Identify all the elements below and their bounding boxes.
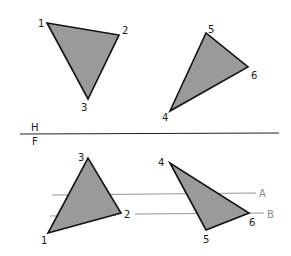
top-label-2: 2: [122, 25, 128, 36]
reference-label-a: A: [259, 188, 266, 199]
top-label-1: 1: [38, 18, 44, 29]
front-label-2: 2: [124, 209, 130, 220]
front-label-3: 3: [78, 152, 84, 163]
fold-label-h: H: [31, 122, 39, 133]
front-label-6: 6: [249, 217, 255, 228]
top-label-4: 4: [162, 112, 168, 123]
front-triangle-456: [170, 163, 249, 230]
reference-label-b: B: [267, 209, 274, 220]
top-triangle-123: [47, 23, 119, 99]
top-label-3: 3: [81, 102, 87, 113]
fold-line-group: H F: [20, 122, 279, 147]
front-triangle-123: [48, 158, 121, 233]
front-label-5: 5: [203, 234, 209, 245]
top-triangle-456: [170, 33, 248, 111]
intersection-diagram: 1 2 3 4 5 6 H F 1 2 3 4 5 6 A B: [0, 0, 291, 256]
fold-line-hf: [20, 133, 279, 134]
top-label-6: 6: [251, 70, 257, 81]
fold-label-f: F: [32, 136, 38, 147]
top-label-5: 5: [208, 24, 214, 35]
top-view: 1 2 3 4 5 6: [38, 18, 257, 123]
front-label-1: 1: [41, 235, 47, 246]
front-label-4: 4: [158, 157, 164, 168]
front-view: 1 2 3 4 5 6 A B: [41, 152, 274, 246]
